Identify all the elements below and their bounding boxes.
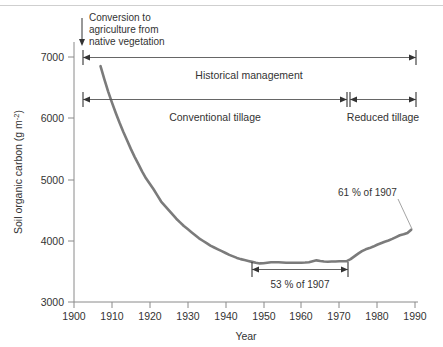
figure-container: 7000 6000 5000 4000 3000 1: [0, 0, 443, 347]
callout-leader-line: [398, 199, 412, 229]
y-axis-title-tail: ): [12, 110, 24, 114]
x-tick-label: 1940: [214, 310, 238, 322]
data-series-group: [101, 66, 412, 263]
final-percent-callout: 61 % of 1907: [338, 187, 412, 229]
soil-organic-carbon-line: [101, 66, 412, 263]
y-axis-title-main: Soil organic carbon (g m: [12, 120, 24, 234]
x-tick-label: 1970: [327, 310, 351, 322]
y-tick-label: 4000: [41, 235, 65, 247]
svg-text:Soil organic carbon (g m-2): Soil organic carbon (g m-2): [12, 110, 25, 234]
conversion-arrow-head: [79, 39, 85, 46]
bracket-arrow-left: [83, 55, 90, 61]
conversion-note-line-3: native vegetation: [89, 36, 165, 47]
historical-management-label: Historical management: [195, 69, 302, 81]
x-axis-ticks: [74, 302, 415, 308]
x-tick-label: 1980: [365, 310, 389, 322]
bracket-arrow-left: [252, 267, 259, 273]
bracket-arrow-left: [350, 97, 357, 103]
y-axis-title: Soil organic carbon (g m-2): [12, 110, 25, 234]
x-tick-label: 1900: [62, 310, 86, 322]
y-tick-label: 6000: [41, 112, 65, 124]
minimum-percent-bracket: 53 % of 1907: [252, 262, 348, 290]
historical-management-bracket: Historical management: [83, 50, 416, 81]
bracket-arrow-right: [409, 55, 416, 61]
x-axis-title: Year: [235, 330, 257, 342]
bracket-arrow-right: [340, 97, 347, 103]
conventional-tillage-label: Conventional tillage: [169, 111, 261, 123]
x-tick-label: 1950: [252, 310, 276, 322]
x-tick-label: 1930: [176, 310, 200, 322]
reduced-tillage-label: Reduced tillage: [347, 111, 420, 123]
bracket-arrow-right: [409, 97, 416, 103]
chart-canvas: 7000 6000 5000 4000 3000 1: [0, 0, 443, 347]
y-tick-label: 5000: [41, 174, 65, 186]
x-tick-label: 1990: [403, 310, 427, 322]
conversion-note-line-2: agriculture from: [89, 24, 158, 35]
bracket-arrow-left: [83, 97, 90, 103]
y-axis-ticks: [68, 57, 74, 302]
conventional-tillage-bracket: Conventional tillage: [83, 92, 347, 123]
conversion-note-group: Conversion to agriculture from native ve…: [79, 12, 165, 47]
x-tick-label: 1960: [289, 310, 313, 322]
final-percent-label: 61 % of 1907: [338, 187, 397, 198]
y-axis-title-superscript: -2: [12, 114, 21, 121]
y-axis-tick-labels: 7000 6000 5000 4000 3000: [41, 51, 65, 308]
minimum-percent-label: 53 % of 1907: [271, 279, 330, 290]
x-tick-label: 1920: [138, 310, 162, 322]
x-tick-label: 1910: [100, 310, 124, 322]
y-tick-label: 3000: [41, 296, 65, 308]
x-axis-tick-labels: 1900 1910 1920 1930 1940 1950 1960 1970 …: [62, 310, 427, 322]
reduced-tillage-bracket: Reduced tillage: [347, 92, 420, 123]
conversion-note-line-1: Conversion to: [89, 12, 151, 23]
bracket-arrow-right: [341, 267, 348, 273]
y-tick-label: 7000: [41, 51, 65, 63]
